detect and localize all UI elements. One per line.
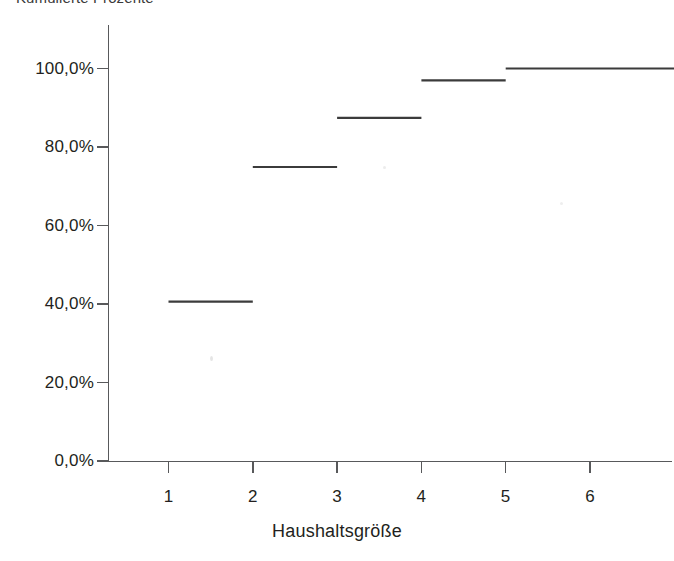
y-tick-label-20: 20,0% (45, 373, 94, 393)
y-tick-label-0: 0,0% (54, 451, 94, 471)
step-series (169, 69, 674, 302)
y-axis-tick-labels: 100,0% 80,0% 60,0% 40,0% 20,0% 0,0% (0, 0, 94, 561)
x-tick-label-2: 2 (248, 487, 258, 507)
scan-speck (383, 166, 386, 169)
x-tick-label-5: 5 (501, 487, 511, 507)
cumulative-percent-step-chart: Kumulierte Prozente 100,0% 80, (0, 0, 674, 561)
y-tick-label-100: 100,0% (35, 59, 94, 79)
y-axis-ticks (97, 69, 108, 462)
y-tick-label-40: 40,0% (45, 294, 94, 314)
x-tick-label-3: 3 (332, 487, 342, 507)
scan-speck (210, 356, 213, 361)
x-axis-title: Haushaltsgröße (0, 521, 674, 542)
x-tick-label-4: 4 (417, 487, 427, 507)
x-tick-label-6: 6 (585, 487, 595, 507)
x-axis-tick-labels: 1 2 3 4 5 6 (0, 487, 674, 513)
y-tick-label-60: 60,0% (45, 216, 94, 236)
x-tick-label-1: 1 (164, 487, 174, 507)
x-axis-ticks (169, 461, 591, 473)
scan-speck (560, 202, 563, 205)
plot-area (0, 0, 674, 561)
y-tick-label-80: 80,0% (45, 137, 94, 157)
